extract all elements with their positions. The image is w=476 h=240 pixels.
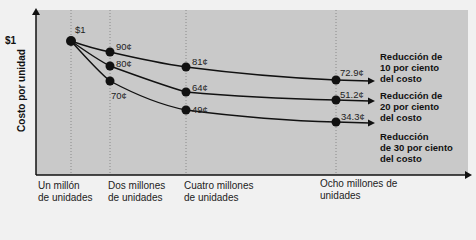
legend-30pct: Reducciónde 30 por cientodel costo <box>380 131 453 164</box>
point-label: 49¢ <box>192 104 208 115</box>
x-tick-4m: Cuatro millonesde unidades <box>184 180 253 204</box>
point-label: 64¢ <box>192 82 208 93</box>
x-tick-1m: Un millónde unidades <box>38 180 93 204</box>
legend-10pct: Reducción de10 por cientodel costo <box>380 51 442 84</box>
y-axis-label: Costo por unidad <box>16 36 27 146</box>
x-axis-arrow-icon <box>465 171 472 179</box>
x-tick-2m: Dos millonesde unidades <box>108 180 165 204</box>
y-tick-label: $1 <box>5 35 16 46</box>
point-label: 70¢ <box>111 90 127 101</box>
point-label: 80¢ <box>116 58 132 69</box>
x-tick-8m: Ocho millones deunidades <box>320 178 397 202</box>
point-label: 90¢ <box>116 41 132 52</box>
point-label: 51.2¢ <box>340 89 364 100</box>
point-label: 81¢ <box>192 56 208 67</box>
legend-20pct: Reducción de20 por cientodel costo <box>380 90 442 123</box>
point-label: 72.9¢ <box>340 67 364 78</box>
point-label: $1 <box>75 24 86 35</box>
point-label: 34.3¢ <box>341 111 365 122</box>
